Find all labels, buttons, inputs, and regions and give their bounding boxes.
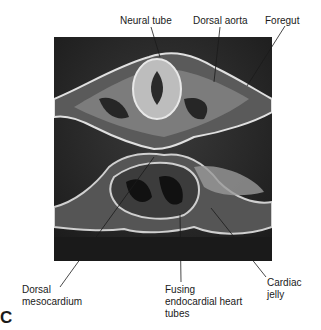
label-dorsal-mesocardium-line1: Dorsal [22, 284, 51, 296]
label-cardiac-jelly-line2: jelly [267, 289, 284, 301]
label-foregut: Foregut [265, 15, 299, 27]
label-dorsal-aorta: Dorsal aorta [193, 15, 247, 27]
panel-label: C [0, 308, 12, 328]
label-fusing-line1: Fusing [165, 284, 195, 296]
label-neural-tube: Neural tube [120, 15, 172, 27]
label-cardiac-jelly-line1: Cardiac [267, 277, 301, 289]
label-fusing-line2: endocardial heart [165, 296, 242, 308]
label-dorsal-mesocardium-line2: mesocardium [22, 296, 82, 308]
label-fusing-line3: tubes [165, 308, 189, 320]
